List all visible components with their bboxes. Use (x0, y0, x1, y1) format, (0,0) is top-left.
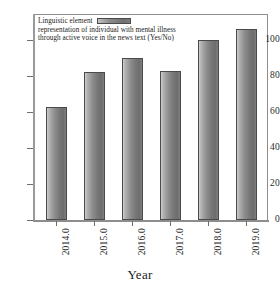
bar-2014 (46, 107, 67, 220)
x-tick-2017 (170, 221, 171, 226)
y-tick-label-60: 60 (254, 107, 280, 117)
bar-2018 (198, 40, 219, 220)
x-tick-2015 (94, 221, 95, 226)
legend-label-line1: Linguistic element (38, 17, 93, 26)
chart-legend: Linguistic element representation of ind… (38, 17, 178, 43)
x-tick-2018 (208, 221, 209, 226)
y-tick-100 (27, 40, 33, 41)
y-tick-20 (27, 184, 33, 185)
x-tick-label-2019: 2019.0 (251, 228, 261, 255)
x-axis-title: Year (0, 268, 280, 282)
y-axis-line (33, 14, 35, 222)
x-tick-label-2017: 2017.0 (175, 228, 185, 255)
bar-2019 (236, 29, 257, 220)
y-tick-80 (27, 76, 33, 77)
x-tick-2019 (246, 221, 247, 226)
bar-2015 (84, 72, 105, 220)
legend-label-line2: representation of individual with mental… (38, 26, 178, 35)
x-tick-label-2018: 2018.0 (213, 228, 223, 255)
y-tick-label-80: 80 (254, 71, 280, 81)
legend-entry: Linguistic element (38, 17, 178, 26)
x-tick-label-2016: 2016.0 (137, 228, 147, 255)
y-tick-60 (27, 112, 33, 113)
legend-label-line3: through active voice in the news text (Y… (38, 34, 178, 43)
x-tick-2014 (56, 221, 57, 226)
x-tick-label-2015: 2015.0 (99, 228, 109, 255)
x-axis-line (33, 220, 269, 222)
bar-2016 (122, 58, 143, 220)
plot-area (33, 14, 268, 221)
y-tick-40 (27, 148, 33, 149)
y-tick-label-20: 20 (254, 179, 280, 189)
bar-2017 (160, 71, 181, 220)
legend-swatch-icon (97, 18, 131, 24)
x-tick-label-2014: 2014.0 (61, 228, 71, 255)
y-tick-label-40: 40 (254, 143, 280, 153)
x-tick-2016 (132, 221, 133, 226)
y-tick-label-100: 100 (254, 35, 280, 45)
bar-chart: 100 80 60 40 20 0 2014.0 2015.0 2016.0 2… (0, 0, 280, 292)
